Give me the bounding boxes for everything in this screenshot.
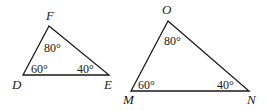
angle-label-m: 60° [138, 78, 155, 92]
vertex-label-o: O [162, 2, 172, 17]
angle-label-o: 80° [164, 34, 181, 48]
angle-label-e: 40° [77, 62, 94, 76]
triangle-mno: O M N 80° 60° 40° [122, 2, 257, 107]
similar-triangles-diagram: F D E 80° 60° 40° O M N 80° 60° 40° [0, 0, 266, 111]
angle-label-d: 60° [31, 62, 48, 76]
vertex-label-f: F [45, 8, 55, 23]
vertex-label-e: E [103, 77, 112, 92]
vertex-label-m: M [122, 92, 135, 107]
vertex-label-d: D [11, 77, 22, 92]
angle-label-n: 40° [217, 78, 234, 92]
angle-label-f: 80° [44, 41, 61, 55]
vertex-label-n: N [246, 92, 257, 107]
triangle-def: F D E 80° 60° 40° [11, 8, 112, 92]
